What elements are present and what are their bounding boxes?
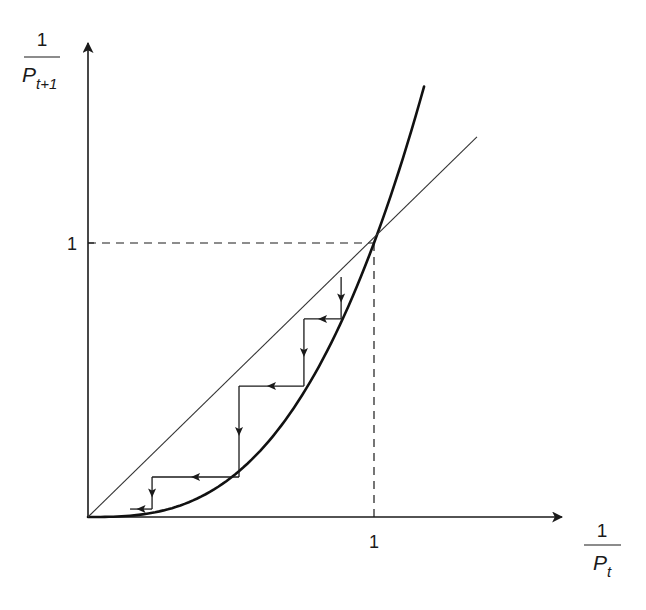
y-tick-label-1: 1 (67, 234, 77, 254)
y-axis-label: 1 Pt+1 (22, 29, 60, 92)
cobweb-diagram: 1 Pt+1 1 Pt 1 1 (0, 0, 646, 610)
y-label-base: P (22, 63, 36, 86)
45-degree-line (88, 137, 477, 517)
x-label-base: P (593, 551, 607, 574)
svg-text:Pt+1: Pt+1 (22, 63, 57, 92)
ticks: 1 1 (67, 234, 379, 552)
x-label-subscript: t (607, 563, 612, 580)
plot-area (88, 87, 477, 517)
x-tick-label-1: 1 (369, 532, 379, 552)
y-label-subscript: t+1 (36, 75, 57, 92)
x-label-numerator: 1 (597, 520, 608, 541)
svg-text:Pt: Pt (593, 551, 612, 580)
x-axis-label: 1 Pt (584, 520, 621, 580)
axes (88, 43, 562, 517)
y-label-numerator: 1 (37, 29, 48, 50)
